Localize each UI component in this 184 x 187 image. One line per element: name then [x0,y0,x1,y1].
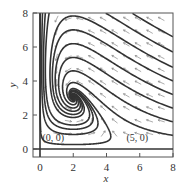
y-axis-label: y [6,82,18,88]
x-tick-label: 8 [170,161,176,173]
y-tick-label: 8 [23,7,29,19]
equilibrium-annotations: (0, 0)(5, 0) [42,132,148,144]
x-tick-label: 0 [37,161,43,173]
equilibrium-label: (0, 0) [42,132,64,144]
x-axis-label: x [103,172,109,184]
phase-portrait-chart: 0246802468 (0, 0)(5, 0) x y [0,0,184,187]
x-tick-label: 2 [71,161,77,173]
y-tick-label: 2 [23,109,29,121]
x-tick-label: 6 [137,161,143,173]
y-tick-label: 6 [23,41,29,53]
equilibrium-label: (5, 0) [126,132,148,144]
trajectory-curve [116,3,133,13]
trajectories [40,3,173,145]
y-tick-label: 4 [23,75,29,87]
y-tick-label: 0 [23,143,29,155]
